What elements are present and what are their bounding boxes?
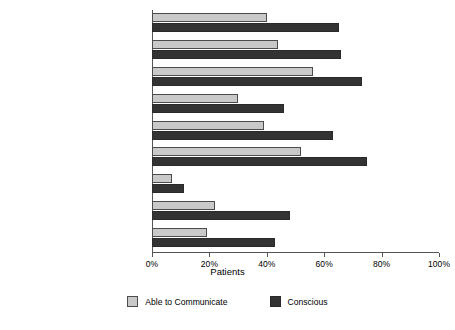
bar-group: [152, 144, 439, 171]
x-tick: [324, 253, 325, 257]
bar-group: [152, 198, 439, 225]
x-axis-title: Patients: [0, 266, 455, 277]
bar-able-to-communicate: [152, 94, 238, 103]
bar-conscious: [152, 131, 333, 140]
legend-swatch-icon-dark: [270, 296, 281, 307]
bar-conscious: [152, 50, 341, 59]
bar-able-to-communicate: [152, 13, 267, 22]
x-axis-line: [152, 252, 439, 253]
bar-conscious: [152, 77, 362, 86]
bar-conscious: [152, 184, 184, 193]
bar-conscious: [152, 238, 275, 247]
x-tick: [209, 253, 210, 257]
x-tick: [439, 253, 440, 257]
bar-group: [152, 118, 439, 145]
bar-able-to-communicate: [152, 174, 172, 183]
legend-swatch-icon-light: [127, 296, 138, 307]
bar-able-to-communicate: [152, 201, 215, 210]
legend-item-able-to-communicate: Able to Communicate: [127, 296, 227, 307]
bar-chart: Persons ≥ Age 80 Chronic Obstructive Pul…: [0, 0, 455, 330]
bar-conscious: [152, 211, 290, 220]
chart-legend: Able to Communicate Conscious: [0, 296, 455, 307]
bar-group: [152, 91, 439, 118]
bar-able-to-communicate: [152, 121, 264, 130]
bar-group: [152, 37, 439, 64]
plot-area: 0%20%40%60%80%100%: [152, 10, 439, 252]
bar-able-to-communicate: [152, 147, 301, 156]
bar-group: [152, 64, 439, 91]
bar-group: [152, 10, 439, 37]
x-tick: [382, 253, 383, 257]
bar-group: [152, 225, 439, 252]
x-tick: [152, 253, 153, 257]
bar-able-to-communicate: [152, 67, 313, 76]
bar-able-to-communicate: [152, 228, 207, 237]
legend-label-1: Conscious: [288, 297, 328, 307]
bar-conscious: [152, 23, 339, 32]
legend-label-0: Able to Communicate: [145, 297, 227, 307]
bar-conscious: [152, 104, 284, 113]
bar-group: [152, 171, 439, 198]
x-tick: [267, 253, 268, 257]
legend-item-conscious: Conscious: [270, 296, 328, 307]
bar-conscious: [152, 157, 367, 166]
bar-able-to-communicate: [152, 40, 278, 49]
